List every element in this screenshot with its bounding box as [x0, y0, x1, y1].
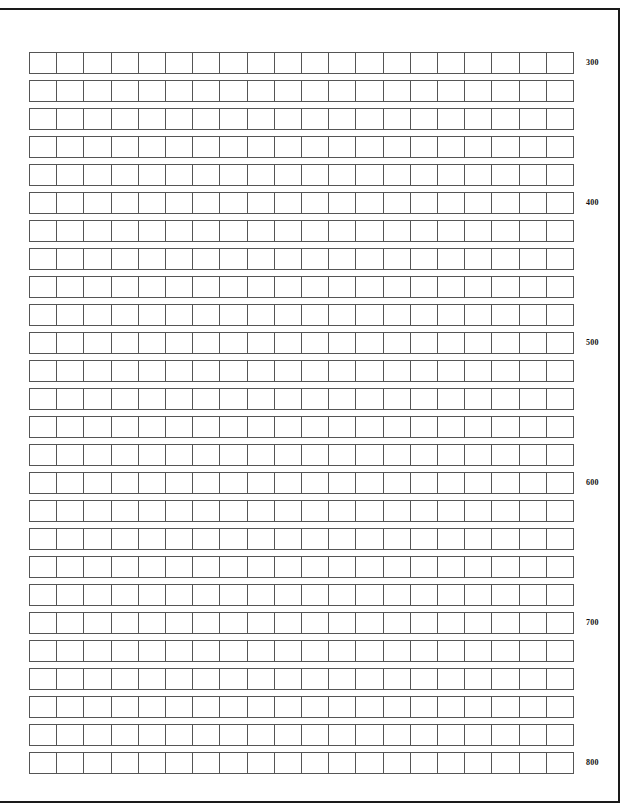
grid-cell[interactable]: [438, 81, 465, 101]
grid-cell[interactable]: [139, 417, 166, 437]
grid-cell[interactable]: [84, 137, 111, 157]
grid-cell[interactable]: [248, 529, 275, 549]
grid-cell[interactable]: [520, 669, 547, 689]
grid-cell[interactable]: [193, 305, 220, 325]
grid-cell[interactable]: [112, 81, 139, 101]
grid-cell[interactable]: [547, 389, 574, 409]
grid-cell[interactable]: [248, 109, 275, 129]
grid-cell[interactable]: [57, 165, 84, 185]
grid-cell[interactable]: [57, 529, 84, 549]
grid-cell[interactable]: [220, 417, 247, 437]
grid-cell[interactable]: [84, 81, 111, 101]
grid-cell[interactable]: [275, 165, 302, 185]
grid-cell[interactable]: [275, 613, 302, 633]
grid-cell[interactable]: [220, 529, 247, 549]
grid-cell[interactable]: [30, 641, 57, 661]
grid-cell[interactable]: [492, 641, 519, 661]
grid-cell[interactable]: [520, 361, 547, 381]
grid-cell[interactable]: [248, 333, 275, 353]
grid-cell[interactable]: [57, 305, 84, 325]
grid-cell[interactable]: [275, 557, 302, 577]
grid-cell[interactable]: [384, 277, 411, 297]
grid-cell[interactable]: [112, 305, 139, 325]
grid-cell[interactable]: [492, 333, 519, 353]
grid-cell[interactable]: [492, 613, 519, 633]
grid-cell[interactable]: [220, 249, 247, 269]
grid-cell[interactable]: [465, 641, 492, 661]
grid-cell[interactable]: [302, 669, 329, 689]
grid-cell[interactable]: [220, 109, 247, 129]
grid-cell[interactable]: [275, 669, 302, 689]
grid-cell[interactable]: [57, 193, 84, 213]
grid-cell[interactable]: [329, 333, 356, 353]
grid-cell[interactable]: [248, 557, 275, 577]
grid-cell[interactable]: [465, 109, 492, 129]
grid-cell[interactable]: [84, 109, 111, 129]
grid-cell[interactable]: [57, 613, 84, 633]
grid-cell[interactable]: [302, 361, 329, 381]
grid-cell[interactable]: [275, 137, 302, 157]
grid-cell[interactable]: [547, 641, 574, 661]
grid-cell[interactable]: [411, 221, 438, 241]
grid-cell[interactable]: [220, 333, 247, 353]
grid-cell[interactable]: [411, 725, 438, 745]
grid-cell[interactable]: [384, 361, 411, 381]
grid-cell[interactable]: [275, 585, 302, 605]
grid-cell[interactable]: [384, 137, 411, 157]
grid-cell[interactable]: [384, 445, 411, 465]
grid-cell[interactable]: [57, 361, 84, 381]
grid-cell[interactable]: [520, 221, 547, 241]
grid-cell[interactable]: [411, 109, 438, 129]
grid-cell[interactable]: [356, 473, 383, 493]
grid-cell[interactable]: [57, 417, 84, 437]
grid-cell[interactable]: [30, 81, 57, 101]
grid-cell[interactable]: [248, 277, 275, 297]
grid-cell[interactable]: [193, 109, 220, 129]
grid-cell[interactable]: [57, 333, 84, 353]
grid-cell[interactable]: [520, 277, 547, 297]
grid-cell[interactable]: [139, 669, 166, 689]
grid-cell[interactable]: [166, 221, 193, 241]
grid-cell[interactable]: [193, 641, 220, 661]
grid-cell[interactable]: [84, 641, 111, 661]
grid-cell[interactable]: [248, 221, 275, 241]
grid-cell[interactable]: [302, 249, 329, 269]
grid-cell[interactable]: [411, 277, 438, 297]
grid-cell[interactable]: [57, 445, 84, 465]
grid-cell[interactable]: [356, 613, 383, 633]
grid-cell[interactable]: [547, 137, 574, 157]
grid-cell[interactable]: [520, 641, 547, 661]
grid-cell[interactable]: [547, 417, 574, 437]
grid-cell[interactable]: [166, 165, 193, 185]
grid-cell[interactable]: [492, 109, 519, 129]
grid-cell[interactable]: [465, 557, 492, 577]
grid-cell[interactable]: [248, 249, 275, 269]
grid-cell[interactable]: [492, 221, 519, 241]
grid-cell[interactable]: [329, 557, 356, 577]
grid-cell[interactable]: [112, 697, 139, 717]
grid-cell[interactable]: [356, 753, 383, 773]
grid-cell[interactable]: [139, 613, 166, 633]
grid-cell[interactable]: [520, 585, 547, 605]
grid-cell[interactable]: [248, 361, 275, 381]
grid-cell[interactable]: [112, 445, 139, 465]
grid-cell[interactable]: [57, 473, 84, 493]
grid-cell[interactable]: [438, 389, 465, 409]
grid-cell[interactable]: [492, 669, 519, 689]
grid-cell[interactable]: [139, 193, 166, 213]
grid-cell[interactable]: [57, 585, 84, 605]
grid-cell[interactable]: [220, 361, 247, 381]
grid-cell[interactable]: [139, 473, 166, 493]
grid-cell[interactable]: [329, 697, 356, 717]
grid-cell[interactable]: [84, 361, 111, 381]
grid-cell[interactable]: [57, 137, 84, 157]
grid-cell[interactable]: [547, 277, 574, 297]
grid-cell[interactable]: [384, 529, 411, 549]
grid-cell[interactable]: [356, 305, 383, 325]
grid-cell[interactable]: [30, 333, 57, 353]
grid-cell[interactable]: [547, 613, 574, 633]
grid-cell[interactable]: [438, 697, 465, 717]
grid-cell[interactable]: [220, 641, 247, 661]
grid-cell[interactable]: [465, 361, 492, 381]
grid-cell[interactable]: [465, 613, 492, 633]
